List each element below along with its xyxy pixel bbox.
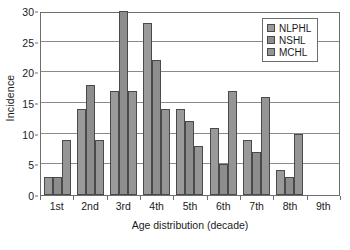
y-axis-tick-label: 5	[28, 159, 34, 171]
x-axis-tick-label: 6th	[207, 200, 240, 212]
y-axis-tick-label: 0	[28, 190, 34, 202]
bar	[110, 91, 119, 195]
x-axis-tick-labels: 1st2nd3rd4th5th6th7th8th9th	[40, 200, 340, 212]
bar	[176, 109, 185, 195]
bar	[152, 60, 161, 195]
legend-item-nshl: NSHL	[267, 34, 311, 46]
bar	[243, 140, 252, 195]
bar	[128, 91, 137, 195]
legend-item-mchl: MCHL	[267, 46, 311, 58]
x-axis-tick-label: 4th	[140, 200, 173, 212]
y-axis-tick-mark	[35, 73, 38, 74]
bar	[77, 109, 86, 195]
legend-label: MCHL	[279, 47, 307, 58]
bar	[210, 128, 219, 195]
chart-legend: NLPHLNSHLMCHL	[262, 18, 318, 62]
bar	[228, 91, 237, 195]
y-axis-tick-mark	[35, 42, 38, 43]
bar	[53, 177, 62, 195]
bar	[185, 121, 194, 195]
bar	[276, 170, 285, 195]
bar	[62, 140, 71, 195]
bar	[95, 140, 104, 195]
bar	[285, 177, 294, 195]
y-axis-tick-label: 20	[22, 67, 34, 79]
y-axis-tick-label: 15	[22, 98, 34, 110]
legend-item-nlphl: NLPHL	[267, 22, 311, 34]
y-axis-tick-labels: 051015202530	[16, 12, 38, 196]
x-axis-tick-label: 8th	[273, 200, 306, 212]
bar	[44, 177, 53, 195]
legend-swatch-icon	[267, 36, 275, 44]
y-axis-tick-label: 25	[22, 37, 34, 49]
bar	[161, 109, 170, 195]
legend-label: NSHL	[279, 35, 306, 46]
y-axis-tick-mark	[35, 165, 38, 166]
x-axis-tick-label: 3rd	[107, 200, 140, 212]
y-axis-tick-label: 10	[22, 129, 34, 141]
x-axis-tick-label: 1st	[40, 200, 73, 212]
bar	[294, 134, 303, 195]
y-axis-tick-label: 30	[22, 6, 34, 18]
bar-group	[107, 13, 140, 195]
bar	[219, 164, 228, 195]
incidence-by-age-bar-chart: Incidence 051015202530 1st2nd3rd4th5th6t…	[0, 0, 350, 250]
bar-group	[41, 13, 74, 195]
bar-group	[140, 13, 173, 195]
y-axis-tick-mark	[35, 12, 38, 13]
y-axis-tick-mark	[35, 134, 38, 135]
x-axis-tick-label: 7th	[240, 200, 273, 212]
bar-group	[173, 13, 206, 195]
x-axis-title: Age distribution (decade)	[40, 219, 340, 231]
bar	[86, 85, 95, 195]
legend-label: NLPHL	[279, 23, 311, 34]
bar	[119, 11, 128, 195]
bar	[194, 146, 203, 195]
bar	[252, 152, 261, 195]
x-axis-tick-mark	[340, 196, 341, 200]
bar	[261, 97, 270, 195]
legend-swatch-icon	[267, 48, 275, 56]
y-axis-title-text: Incidence	[4, 75, 16, 122]
bar	[143, 23, 152, 195]
x-axis-tick-label: 9th	[307, 200, 340, 212]
y-axis-tick-mark	[35, 196, 38, 197]
legend-swatch-icon	[267, 24, 275, 32]
bar-group	[207, 13, 240, 195]
x-axis-tick-label: 5th	[173, 200, 206, 212]
bar-group	[74, 13, 107, 195]
y-axis-tick-mark	[35, 104, 38, 105]
x-axis-tick-label: 2nd	[73, 200, 106, 212]
